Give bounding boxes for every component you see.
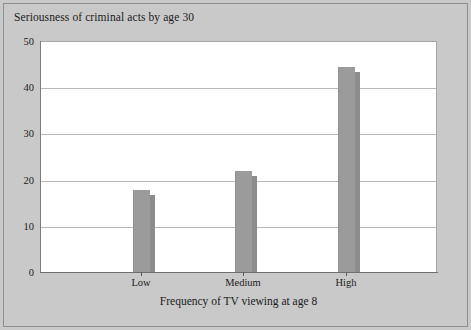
bar-high-side <box>355 72 360 272</box>
x-tick-mark-low <box>141 272 142 276</box>
y-axis-labels: 50 40 30 20 10 0 <box>0 0 34 330</box>
x-axis-title: Frequency of TV viewing at age 8 <box>40 295 437 307</box>
y-tick-label-30: 30 <box>4 128 34 139</box>
bar-medium <box>235 171 257 272</box>
x-tick-label-low: Low <box>131 277 150 288</box>
x-axis-line <box>40 272 438 273</box>
y-tick-label-50: 50 <box>4 36 34 47</box>
gridline-40 <box>40 88 436 89</box>
bar-medium-front <box>235 171 252 272</box>
bar-low <box>133 190 155 272</box>
bar-low-side <box>150 195 155 272</box>
x-tick-label-high: High <box>336 277 357 288</box>
plot-area <box>40 41 437 272</box>
gridline-30 <box>40 134 436 135</box>
chart-figure: Seriousness of criminal acts by age 30 5… <box>0 0 471 330</box>
bar-low-front <box>133 190 150 272</box>
y-tick-label-40: 40 <box>4 82 34 93</box>
bar-high <box>338 67 360 272</box>
bar-high-front <box>338 67 355 272</box>
y-axis-line <box>40 41 41 273</box>
x-tick-label-medium: Medium <box>225 277 261 288</box>
chart-title: Seriousness of criminal acts by age 30 <box>14 11 194 23</box>
x-tick-mark-medium <box>243 272 244 276</box>
x-tick-mark-high <box>346 272 347 276</box>
y-tick-label-10: 10 <box>4 221 34 232</box>
bar-medium-side <box>252 176 257 272</box>
y-tick-label-20: 20 <box>4 175 34 186</box>
y-tick-label-0: 0 <box>4 267 34 278</box>
